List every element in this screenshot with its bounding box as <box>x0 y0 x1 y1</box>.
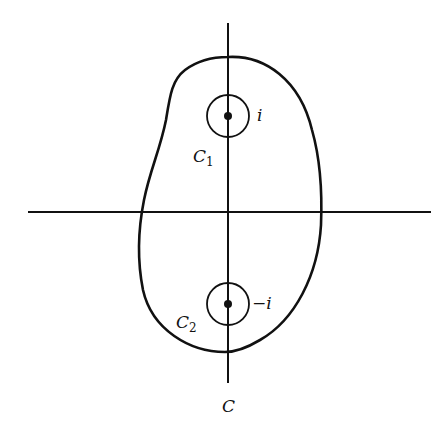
label-c2: C2 <box>176 312 197 335</box>
pole-label-i: i <box>257 105 262 125</box>
contour-diagram: i −i C1 C2 C <box>0 0 447 431</box>
pole-i-dot <box>224 112 232 120</box>
label-contour-c: C <box>222 396 235 416</box>
pole-label-minus-i: −i <box>252 293 272 313</box>
pole-minus-i-dot <box>224 300 232 308</box>
label-c1: C1 <box>193 146 214 169</box>
contour-c <box>139 57 321 352</box>
